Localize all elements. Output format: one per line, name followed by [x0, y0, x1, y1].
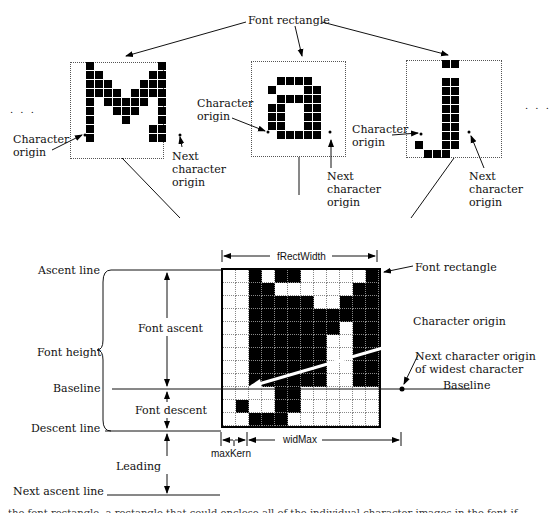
connector-lines	[0, 0, 551, 513]
